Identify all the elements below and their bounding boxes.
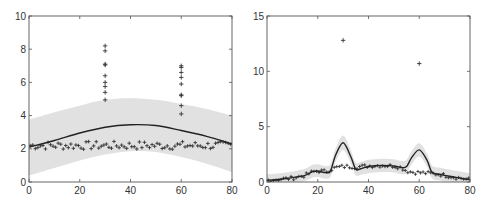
x-tick-label: 60 bbox=[414, 185, 426, 196]
y-tick-label: 10 bbox=[253, 66, 265, 77]
figure: 0204060800246810 020406080051015 bbox=[0, 0, 494, 207]
x-tick-label: 20 bbox=[74, 185, 86, 196]
axes-frame bbox=[267, 16, 470, 182]
x-tick-label: 20 bbox=[312, 185, 324, 196]
left-plot: 0204060800246810 bbox=[15, 11, 238, 197]
x-tick-label: 80 bbox=[464, 185, 476, 196]
y-tick-label: 15 bbox=[253, 11, 265, 22]
y-tick-label: 6 bbox=[20, 77, 26, 88]
y-tick-label: 0 bbox=[258, 177, 264, 188]
x-tick-label: 0 bbox=[26, 185, 32, 196]
x-tick-label: 80 bbox=[226, 185, 238, 196]
x-tick-label: 0 bbox=[264, 185, 270, 196]
x-tick-label: 40 bbox=[363, 185, 375, 196]
y-tick-label: 10 bbox=[15, 11, 27, 22]
y-tick-label: 2 bbox=[20, 143, 26, 154]
x-tick-label: 40 bbox=[125, 185, 137, 196]
y-tick-label: 8 bbox=[20, 44, 26, 55]
confidence-band bbox=[29, 98, 232, 175]
x-tick-label: 60 bbox=[176, 185, 188, 196]
y-tick-label: 0 bbox=[20, 177, 26, 188]
right-plot: 020406080051015 bbox=[253, 11, 476, 197]
y-tick-label: 5 bbox=[258, 121, 264, 132]
y-tick-label: 4 bbox=[20, 110, 26, 121]
